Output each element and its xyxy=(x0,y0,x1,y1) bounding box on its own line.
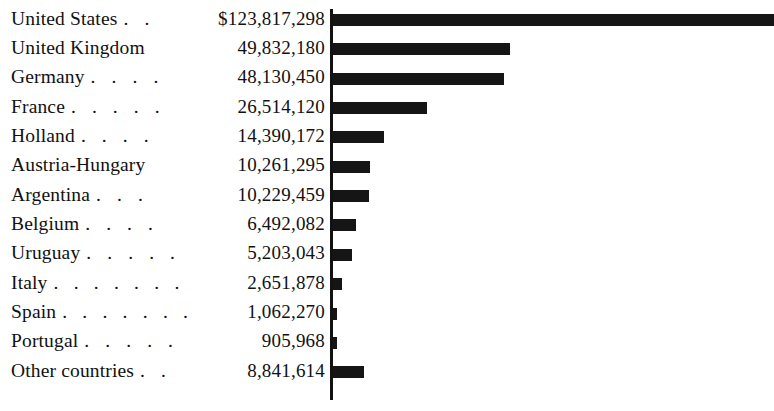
table-row: Austria-Hungary10,261,295 xyxy=(0,151,774,180)
row-label: Argentina. . . xyxy=(11,180,216,209)
country-name: United States xyxy=(11,8,117,30)
row-label: Italy. . . . . . . xyxy=(11,268,216,297)
table-row: Other countries. .8,841,614 xyxy=(0,356,774,385)
country-name: Austria-Hungary xyxy=(11,154,145,176)
row-label: Germany. . . . xyxy=(11,63,216,92)
country-name: Spain xyxy=(11,301,56,323)
row-value: 8,841,614 xyxy=(196,356,325,385)
row-value: 10,261,295 xyxy=(196,151,325,180)
row-label: France. . . . . xyxy=(11,92,216,121)
row-label: Other countries. . xyxy=(11,356,216,385)
bar xyxy=(333,366,364,378)
country-name: Portugal xyxy=(11,330,78,352)
row-value: 48,130,450 xyxy=(196,63,325,92)
bar xyxy=(333,14,774,26)
dot-leader: . . . . xyxy=(75,125,216,147)
row-value: 10,229,459 xyxy=(196,180,325,209)
row-label: United States. . xyxy=(11,4,216,33)
row-value: 49,832,180 xyxy=(196,33,325,62)
row-label: Spain. . . . . . . xyxy=(11,298,216,327)
dot-leader: . . . . . . . xyxy=(47,272,216,294)
row-value: 5,203,043 xyxy=(196,239,325,268)
row-value: 1,062,270 xyxy=(196,298,325,327)
country-name: Holland xyxy=(11,125,75,147)
table-row: Uruguay. . . . .5,203,043 xyxy=(0,239,774,268)
row-label: Portugal. . . . . xyxy=(11,327,216,356)
country-name: Belgium xyxy=(11,213,79,235)
table-row: Argentina. . .10,229,459 xyxy=(0,180,774,209)
country-name: United Kingdom xyxy=(11,37,145,59)
row-value: 14,390,172 xyxy=(196,121,325,150)
row-label: Austria-Hungary xyxy=(11,151,216,180)
country-name: Italy xyxy=(11,272,47,294)
table-row: Portugal. . . . .905,968 xyxy=(0,327,774,356)
row-value: 2,651,878 xyxy=(196,268,325,297)
country-name: Uruguay xyxy=(11,242,80,264)
bar xyxy=(333,131,384,143)
country-name: France xyxy=(11,96,65,118)
country-name: Germany xyxy=(11,66,85,88)
table-row: Spain. . . . . . .1,062,270 xyxy=(0,298,774,327)
row-value: $123,817,298 xyxy=(196,4,325,33)
bar xyxy=(333,219,356,231)
bar xyxy=(333,73,504,85)
row-value: 26,514,120 xyxy=(196,92,325,121)
bar xyxy=(333,337,337,349)
bar xyxy=(333,43,510,55)
row-label: Belgium. . . . xyxy=(11,209,216,238)
country-name: Other countries xyxy=(11,360,134,382)
table-row: Italy. . . . . . .2,651,878 xyxy=(0,268,774,297)
horizontal-bar-chart: United States. .$123,817,298United Kingd… xyxy=(0,0,774,411)
row-label: Uruguay. . . . . xyxy=(11,239,216,268)
bar xyxy=(333,278,342,290)
dot-leader: . . . . . xyxy=(65,96,216,118)
row-value: 6,492,082 xyxy=(196,209,325,238)
table-row: Belgium. . . .6,492,082 xyxy=(0,209,774,238)
row-value: 905,968 xyxy=(196,327,325,356)
table-row: Holland. . . .14,390,172 xyxy=(0,121,774,150)
bar xyxy=(333,190,369,202)
bar xyxy=(333,249,352,261)
country-name: Argentina xyxy=(11,184,90,206)
row-label: Holland. . . . xyxy=(11,121,216,150)
row-label: United Kingdom xyxy=(11,33,216,62)
bar xyxy=(333,102,427,114)
bar xyxy=(333,161,370,173)
bar xyxy=(333,308,337,320)
dot-leader: . . . . . . . xyxy=(56,301,216,323)
